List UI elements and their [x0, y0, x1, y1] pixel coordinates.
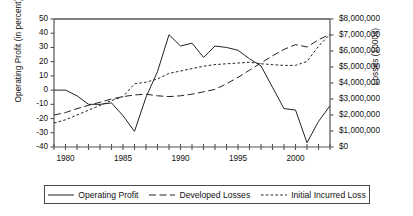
- legend-swatch-long-dash-icon: [149, 191, 175, 199]
- plot-area: [0, 0, 413, 216]
- legend-swatch-solid-icon: [48, 191, 74, 199]
- legend-label: Operating Profit: [78, 190, 138, 200]
- legend-item: Initial Incurred Loss: [261, 190, 366, 200]
- series-line: [54, 34, 330, 115]
- chart-container: Operating Profit (in percent) Losses (10…: [0, 0, 413, 216]
- legend-item: Developed Losses: [149, 190, 250, 200]
- series-line: [54, 35, 330, 143]
- legend-label: Initial Incurred Loss: [291, 190, 366, 200]
- legend-label: Developed Losses: [179, 190, 250, 200]
- legend-swatch-short-dash-icon: [261, 191, 287, 199]
- chart-legend: Operating ProfitDeveloped LossesInitial …: [44, 185, 370, 204]
- legend-item: Operating Profit: [48, 190, 138, 200]
- series-line: [54, 34, 330, 123]
